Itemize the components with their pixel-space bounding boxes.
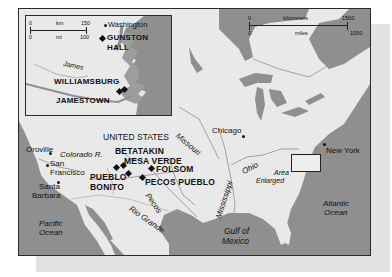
chicago-marker (242, 135, 245, 138)
washington-label: Washington (108, 21, 147, 29)
san-francisco-label-1: San (50, 160, 64, 168)
scale-tick-start (249, 22, 250, 30)
inset-map: 0 km 150 0 mi 100 Washington GUNSTON HAL… (25, 15, 172, 116)
chicago-label: Chicago (212, 127, 241, 135)
williamsburg-label: WILLIAMSBURG (54, 78, 120, 86)
pueblo-bonito-label-1: PUEBLO (90, 173, 127, 182)
pueblo-bonito-label-2: BONITO (90, 183, 124, 192)
area-enlarged-label-1: Area (274, 169, 289, 176)
colorado-river-label: Colorado R. (60, 151, 103, 159)
new-york-label: New York (326, 147, 360, 155)
pacific-label-1: Pacific (39, 220, 63, 228)
inset-scale-tick-start (30, 27, 31, 34)
inset-scale-mi-zero: 0 (29, 35, 32, 41)
inset-scale-km-max: 150 (81, 21, 90, 27)
inset-scale-mi-label: mi (56, 35, 62, 41)
inset-scale-mi-max: 100 (80, 35, 89, 41)
atlantic-label-1: Atlantic (323, 200, 349, 208)
inset-scale-tick-end (86, 27, 87, 34)
scale-km-label: kilometers (283, 16, 308, 22)
gunston-label-1: GUNSTON (107, 34, 148, 42)
scale-mi-label: miles (295, 31, 308, 37)
inset-scale-bar (30, 30, 87, 31)
inset-scale-km-label: km (56, 21, 63, 27)
scale-mi-zero: 0 (248, 31, 251, 37)
scale-tick-end (347, 22, 348, 30)
scale-mi-max: 1000 (350, 31, 362, 37)
atlantic-label-2: Ocean (324, 209, 348, 217)
betatakin-label: BETATAKIN (115, 147, 164, 156)
gulf-label-1: Gulf of (224, 227, 249, 236)
gunston-label-2: HALL (107, 44, 129, 52)
united-states-label: UNITED STATES (103, 133, 169, 142)
inset-scale-km-zero: 0 (29, 21, 32, 27)
santa-barbara-label-1: Santa (39, 183, 60, 191)
gulf-label-2: Mexico (222, 237, 249, 246)
area-enlarged-box (291, 154, 321, 172)
scale-km-max: 1500 (342, 16, 354, 22)
oroville-label: Oroville (26, 146, 53, 154)
scale-bar (249, 25, 348, 26)
pacific-label-2: Ocean (39, 229, 63, 237)
pecos-pueblo-label: PECOS PUEBLO (145, 178, 215, 187)
jamestown-label: JAMESTOWN (56, 97, 110, 105)
area-enlarged-label-2: Enlarged (256, 177, 284, 184)
scale-km-zero: 0 (248, 16, 251, 22)
santa-barbara-label-2: Barbara (32, 192, 60, 200)
san-francisco-marker (46, 164, 49, 167)
folsom-label: FOLSOM (156, 165, 194, 174)
san-francisco-label-2: Francisco (50, 169, 85, 177)
map-frame: 0 km 150 0 mi 100 Washington GUNSTON HAL… (18, 8, 371, 256)
washington-marker (104, 24, 107, 27)
